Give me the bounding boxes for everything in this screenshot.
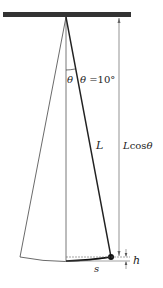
left-extreme-string	[20, 17, 66, 257]
length-label: L	[95, 139, 103, 152]
arc-label: s	[94, 263, 99, 274]
h-arrow-bottom	[125, 261, 128, 265]
angle-arc	[66, 69, 75, 70]
lcos-arrow-top	[118, 18, 121, 23]
lcos-label: Lcosθ	[122, 140, 152, 151]
pendulum-diagram: θ θ =10° L Lcosθ s h	[0, 0, 163, 288]
height-label: h	[133, 254, 140, 267]
h-arrow-top	[125, 253, 128, 257]
lcos-arrow-bottom	[118, 251, 121, 256]
theta-equation: θ =10°	[80, 74, 115, 85]
ceiling-bar	[3, 12, 131, 17]
theta-label: θ	[67, 74, 73, 85]
pendulum-string	[66, 17, 111, 257]
